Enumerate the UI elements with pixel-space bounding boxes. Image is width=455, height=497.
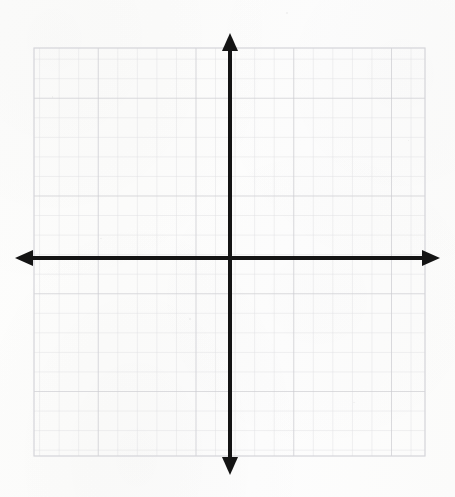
y-axis-bottom-arrowhead — [222, 457, 238, 475]
x-axis-left-arrowhead — [15, 250, 33, 266]
graph-paper-page — [0, 0, 455, 497]
coordinate-plane-graphic — [0, 0, 455, 497]
y-axis-top-arrowhead — [222, 33, 238, 51]
x-axis-right-arrowhead — [422, 250, 440, 266]
